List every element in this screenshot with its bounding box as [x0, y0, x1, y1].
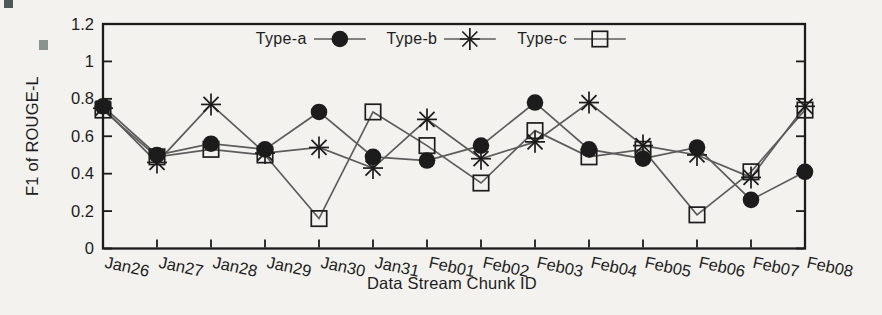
x-axis-title: Data Stream Chunk ID — [367, 274, 537, 293]
x-tick-label: Feb03 — [535, 253, 585, 280]
legend-label-type-a: Type-a — [256, 30, 307, 48]
marker-type-a — [743, 192, 760, 209]
legend-marker-type-c — [574, 27, 626, 51]
series-line-type-c — [103, 110, 805, 219]
y-axis-title: F1 of ROUGE-L — [23, 76, 42, 196]
x-tick-label: Jan28 — [211, 253, 259, 280]
marker-type-b — [363, 157, 383, 179]
legend-sample-marker — [460, 28, 480, 50]
legend-marker-type-b — [444, 27, 496, 51]
legend-label-type-c: Type-c — [517, 30, 567, 48]
legend-marker-type-a — [314, 27, 366, 51]
legend-item-type-c: Type-c — [517, 27, 626, 51]
x-tick-label: Jan29 — [265, 253, 313, 280]
marker-type-b — [201, 93, 221, 115]
x-tick-label: Feb06 — [697, 253, 747, 280]
x-tick-label: Jan26 — [103, 253, 151, 280]
y-tick-label: 1 — [85, 52, 94, 70]
marker-type-b — [309, 136, 329, 158]
x-tick-label: Feb04 — [589, 253, 639, 280]
legend-item-type-b: Type-b — [387, 27, 497, 51]
marker-type-a — [203, 135, 220, 152]
x-tick-label: Feb08 — [805, 253, 855, 280]
marker-type-a — [311, 104, 328, 121]
y-tick-label: 1.2 — [71, 15, 94, 33]
marker-type-b — [417, 108, 437, 130]
marker-type-a — [527, 94, 544, 111]
y-tick-label: 0.6 — [71, 127, 94, 145]
marker-type-b — [471, 148, 491, 170]
y-tick-label: 0.2 — [71, 202, 94, 220]
legend-label-type-b: Type-b — [387, 30, 438, 48]
marker-type-b — [687, 144, 707, 166]
x-tick-label: Feb07 — [751, 253, 801, 280]
y-tick-label: 0.4 — [71, 164, 94, 182]
marker-type-a — [797, 163, 814, 180]
x-tick-label: Jan27 — [157, 253, 205, 280]
legend-sample-marker — [331, 31, 348, 48]
x-tick-label: Jan30 — [319, 253, 367, 280]
marker-type-a — [419, 152, 436, 169]
legend-item-type-a: Type-a — [256, 27, 366, 51]
chart-figure: 00.20.40.60.811.2Jan26Jan27Jan28Jan29Jan… — [0, 0, 882, 315]
x-tick-label: Feb05 — [643, 253, 693, 280]
legend: Type-a Type-b Type-c — [256, 27, 626, 51]
y-tick-label: 0.8 — [71, 89, 94, 107]
marker-type-b — [579, 92, 599, 114]
y-tick-label: 0 — [85, 239, 94, 257]
